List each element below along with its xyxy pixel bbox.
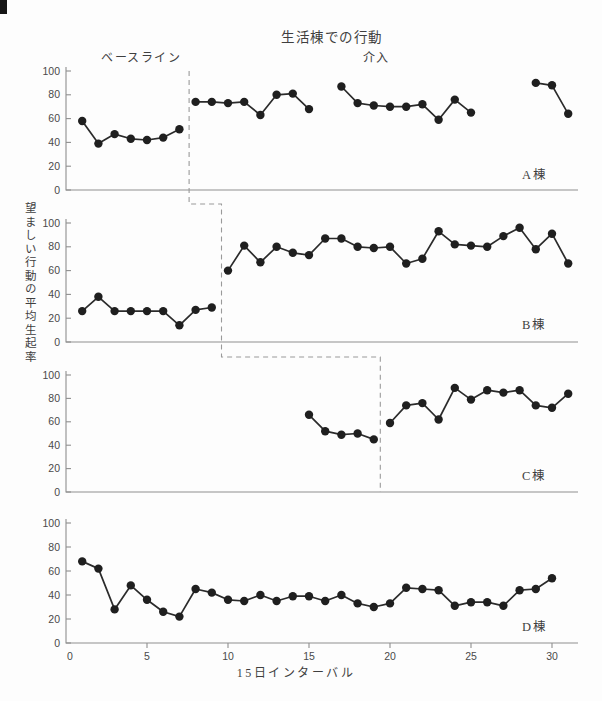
data-point <box>143 596 151 604</box>
x-tick-label: 15 <box>303 650 315 662</box>
y-tick-label: 80 <box>48 240 60 252</box>
data-point <box>353 99 361 107</box>
y-tick-label: 100 <box>42 517 60 529</box>
data-point <box>143 307 151 315</box>
data-point <box>159 608 167 616</box>
data-point <box>256 258 264 266</box>
data-point <box>321 427 329 435</box>
data-point <box>110 130 118 138</box>
data-point <box>467 598 475 606</box>
y-tick-label: 20 <box>48 312 60 324</box>
y-tick-label: 20 <box>48 462 60 474</box>
data-point <box>370 603 378 611</box>
data-point <box>564 390 572 398</box>
y-tick-label: 20 <box>48 613 60 625</box>
data-point <box>337 431 345 439</box>
data-point <box>467 395 475 403</box>
data-point <box>499 232 507 240</box>
data-point <box>289 592 297 600</box>
data-point <box>175 125 183 133</box>
data-point <box>483 386 491 394</box>
data-point <box>159 133 167 141</box>
data-point <box>548 81 556 89</box>
data-point <box>402 584 410 592</box>
data-point <box>256 111 264 119</box>
data-point <box>208 98 216 106</box>
data-point <box>402 259 410 267</box>
x-tick-label: 30 <box>546 650 558 662</box>
data-point <box>386 599 394 607</box>
data-point <box>370 435 378 443</box>
data-point <box>483 243 491 251</box>
data-point <box>370 101 378 109</box>
data-point <box>175 321 183 329</box>
data-point <box>321 234 329 242</box>
y-tick-label: 60 <box>48 264 60 276</box>
figure-page: { "title": "生活棟での行動", "phase_labels": { … <box>0 0 602 701</box>
data-point <box>78 117 86 125</box>
y-tick-label: 0 <box>54 637 60 649</box>
data-point <box>467 241 475 249</box>
data-point <box>467 108 475 116</box>
data-point <box>305 251 313 259</box>
data-point <box>515 224 523 232</box>
data-point <box>337 591 345 599</box>
y-tick-label: 60 <box>48 565 60 577</box>
data-point <box>548 230 556 238</box>
y-tick-label: 60 <box>48 415 60 427</box>
y-tick-label: 40 <box>48 288 60 300</box>
x-tick-label: 10 <box>222 650 234 662</box>
y-tick-label: 0 <box>54 184 60 196</box>
data-point <box>353 429 361 437</box>
panel-1: 020406080100 <box>42 65 578 196</box>
data-point <box>548 404 556 412</box>
x-tick-label: 5 <box>144 650 150 662</box>
x-tick-label: 25 <box>465 650 477 662</box>
data-point <box>532 245 540 253</box>
data-point <box>548 574 556 582</box>
data-point <box>143 136 151 144</box>
data-point <box>418 585 426 593</box>
y-tick-label: 0 <box>54 486 60 498</box>
data-point <box>208 303 216 311</box>
data-point <box>127 135 135 143</box>
data-point <box>94 139 102 147</box>
data-point <box>289 89 297 97</box>
data-point <box>532 401 540 409</box>
data-point <box>434 116 442 124</box>
data-point <box>240 241 248 249</box>
series-line-baseline <box>82 561 552 616</box>
data-point <box>370 244 378 252</box>
data-point <box>289 249 297 257</box>
data-point <box>434 586 442 594</box>
data-point <box>191 98 199 106</box>
data-point <box>451 95 459 103</box>
data-point <box>337 82 345 90</box>
chart-canvas: 0204060801000204060801000204060801000204… <box>0 0 602 701</box>
data-point <box>127 307 135 315</box>
data-point <box>94 293 102 301</box>
data-point <box>402 401 410 409</box>
x-tick-label: 20 <box>384 650 396 662</box>
data-point <box>564 110 572 118</box>
data-point <box>451 602 459 610</box>
y-tick-label: 40 <box>48 439 60 451</box>
data-point <box>78 557 86 565</box>
data-point <box>191 306 199 314</box>
data-point <box>353 243 361 251</box>
data-point <box>305 411 313 419</box>
data-point <box>240 98 248 106</box>
data-point <box>175 612 183 620</box>
data-point <box>191 585 199 593</box>
data-point <box>78 307 86 315</box>
data-point <box>451 384 459 392</box>
data-point <box>451 240 459 248</box>
data-point <box>94 564 102 572</box>
data-point <box>434 415 442 423</box>
data-point <box>418 255 426 263</box>
data-point <box>386 419 394 427</box>
y-tick-label: 80 <box>48 88 60 100</box>
y-tick-label: 40 <box>48 589 60 601</box>
data-point <box>256 591 264 599</box>
y-tick-label: 100 <box>42 217 60 229</box>
